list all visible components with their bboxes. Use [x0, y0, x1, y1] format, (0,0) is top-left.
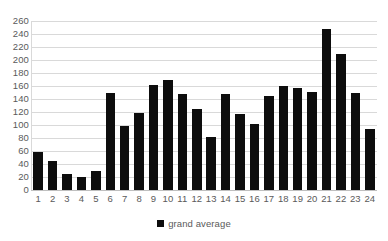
x-axis-tick-label: 19: [291, 193, 305, 204]
x-axis-tick-label: 9: [146, 193, 160, 204]
y-axis-tick-label: 0: [1, 185, 29, 195]
y-axis-labels: 260240220200180160140120100806040200: [0, 0, 29, 241]
y-axis-tick-label: 80: [1, 133, 29, 143]
y-axis-tick-label: 40: [1, 159, 29, 169]
x-axis-tick-label: 16: [247, 193, 261, 204]
bar: [279, 86, 289, 190]
x-axis-tick-label: 14: [218, 193, 232, 204]
bar: [336, 54, 346, 191]
y-axis-tick-label: 240: [1, 29, 29, 39]
bar: [206, 137, 216, 190]
bar: [221, 94, 231, 190]
x-axis-tick-label: 11: [175, 193, 189, 204]
bar: [322, 29, 332, 190]
chart-legend: grand average: [0, 218, 388, 229]
y-axis-tick-label: 180: [1, 68, 29, 78]
y-axis-tick-label: 220: [1, 42, 29, 52]
bar: [293, 88, 303, 190]
x-axis-tick-label: 22: [334, 193, 348, 204]
legend-label: grand average: [168, 218, 231, 229]
bar: [33, 152, 43, 190]
bar: [91, 171, 101, 191]
y-axis-tick-label: 100: [1, 120, 29, 130]
y-axis-tick-label: 160: [1, 81, 29, 91]
x-axis-tick-label: 24: [363, 193, 377, 204]
bar: [235, 114, 245, 190]
gridline: [31, 190, 377, 191]
x-axis-tick-label: 20: [305, 193, 319, 204]
x-axis-tick-label: 13: [204, 193, 218, 204]
bar: [120, 126, 130, 190]
x-axis-tick-label: 10: [161, 193, 175, 204]
plot-area: [31, 21, 377, 190]
bar-chart: 260240220200180160140120100806040200 123…: [0, 0, 388, 241]
x-axis-tick-label: 5: [89, 193, 103, 204]
gridline: [31, 21, 377, 22]
bar: [365, 129, 375, 190]
y-axis-tick-label: 200: [1, 55, 29, 65]
bar: [178, 94, 188, 190]
bar: [77, 177, 87, 190]
y-axis-tick-label: 260: [1, 16, 29, 26]
x-axis-tick-label: 23: [348, 193, 362, 204]
bar: [307, 92, 317, 190]
x-axis-labels: 123456789101112131415161718192021222324: [31, 193, 377, 209]
x-axis-tick-label: 6: [103, 193, 117, 204]
bar: [134, 113, 144, 190]
x-axis-tick-label: 12: [190, 193, 204, 204]
x-axis-tick-label: 8: [132, 193, 146, 204]
x-axis-tick-label: 7: [118, 193, 132, 204]
bar: [351, 93, 361, 191]
x-axis-tick-label: 2: [45, 193, 59, 204]
y-axis-tick-label: 140: [1, 94, 29, 104]
y-axis-tick-label: 120: [1, 107, 29, 117]
x-axis-tick-label: 18: [276, 193, 290, 204]
bar: [163, 80, 173, 190]
x-axis-tick-label: 4: [74, 193, 88, 204]
x-axis-tick-label: 15: [233, 193, 247, 204]
x-axis-tick-label: 17: [262, 193, 276, 204]
y-axis-tick-label: 60: [1, 146, 29, 156]
x-axis-tick-label: 21: [319, 193, 333, 204]
bar: [149, 85, 159, 190]
x-axis-tick-label: 1: [31, 193, 45, 204]
y-axis-tick-label: 20: [1, 172, 29, 182]
x-axis-tick-label: 3: [60, 193, 74, 204]
bar: [264, 96, 274, 190]
bar: [192, 109, 202, 190]
legend-swatch-icon: [157, 220, 164, 227]
bar: [106, 93, 116, 191]
bar: [48, 161, 58, 190]
bar: [62, 174, 72, 190]
bar: [250, 124, 260, 190]
